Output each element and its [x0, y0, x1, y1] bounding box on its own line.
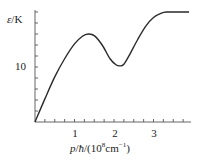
x-label-unit: cm [105, 142, 118, 154]
axes [35, 10, 191, 122]
dispersion-curve [35, 12, 189, 122]
x-tick-label-2: 2 [110, 128, 120, 139]
x-tick-label-1: 1 [70, 128, 80, 139]
x-label-close: ) [126, 142, 130, 154]
y-axis-unit: /K [11, 13, 22, 25]
x-axis-label: p/ħ/(108cm−1) [70, 143, 130, 154]
dispersion-chart: ε/K 10 1 2 3 p/ħ/(108cm−1) [0, 0, 205, 168]
y-axis-label: ε/K [7, 14, 22, 25]
x-tick-label-3: 3 [149, 128, 159, 139]
x-label-open: /(10 [84, 142, 102, 154]
y-tick-label-10: 10 [15, 61, 26, 72]
